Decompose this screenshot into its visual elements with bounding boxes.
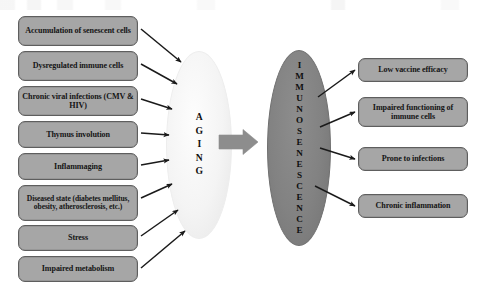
connector-cause-4 <box>141 160 169 165</box>
cause-label: Thymus involution <box>22 130 134 139</box>
immunosenescence-label: IMMUNOSENESCENCE <box>294 60 303 236</box>
cause-node-accumulation-of-senescent-cells[interactable]: Accumulation of senescent cells <box>18 16 138 46</box>
cause-node-inflammaging[interactable]: Inflammaging <box>18 153 138 180</box>
cause-label: Accumulation of senescent cells <box>22 26 134 35</box>
outcome-node-prone-to-infections[interactable]: Prone to infections <box>358 147 468 171</box>
diagram-canvas: Accumulation of senescent cells Dysregul… <box>0 0 481 291</box>
cause-label: Impaired metabolism <box>22 264 134 273</box>
connector-cause-1 <box>141 64 177 84</box>
aging-ellipse[interactable]: AGING <box>166 51 232 239</box>
cause-node-chronic-viral-infections[interactable]: Chronic viral infections (CMV & HIV) <box>18 86 138 116</box>
cause-node-diseased-state[interactable]: Diseased state (diabetes mellitus, obesi… <box>18 185 138 221</box>
immunosenescence-ellipse[interactable]: IMMUNOSENESCENCE <box>267 50 331 246</box>
cause-label: Chronic viral infections (CMV & HIV) <box>22 92 134 110</box>
outcome-label: Impaired functioning of immune cells <box>362 103 464 121</box>
cause-node-impaired-metabolism[interactable]: Impaired metabolism <box>18 256 138 282</box>
connector-cause-0 <box>141 29 181 62</box>
cause-node-thymus-involution[interactable]: Thymus involution <box>18 121 138 148</box>
aging-label: AGING <box>194 111 204 179</box>
cause-label: Diseased state (diabetes mellitus, obesi… <box>22 195 134 212</box>
scan-artifact-band <box>0 0 481 10</box>
outcome-node-chronic-inflammation[interactable]: Chronic inflammation <box>358 194 468 218</box>
cause-node-stress[interactable]: Stress <box>18 225 138 251</box>
outcome-label: Chronic inflammation <box>362 201 464 210</box>
outcome-label: Prone to infections <box>362 154 464 163</box>
connector-cause-7 <box>141 231 185 268</box>
outcome-label: Low vaccine efficacy <box>362 65 464 74</box>
cause-label: Stress <box>22 233 134 242</box>
cause-node-dysregulated-immune-cells[interactable]: Dysregulated immune cells <box>18 51 138 81</box>
cause-label: Dysregulated immune cells <box>22 61 134 70</box>
outcome-node-low-vaccine-efficacy[interactable]: Low vaccine efficacy <box>358 58 468 82</box>
connector-cause-6 <box>141 210 178 236</box>
connector-cause-5 <box>141 184 172 198</box>
cause-label: Inflammaging <box>22 162 134 171</box>
outcome-node-impaired-functioning-of-immune-cells[interactable]: Impaired functioning of immune cells <box>358 97 468 127</box>
connector-cause-3 <box>141 133 169 135</box>
connector-cause-2 <box>141 99 172 109</box>
